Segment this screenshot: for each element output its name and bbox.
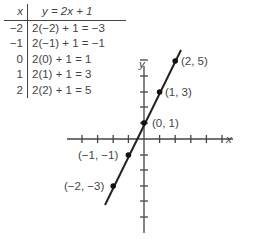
axes bbox=[67, 60, 233, 233]
point bbox=[172, 58, 178, 64]
point-label: (0, 1) bbox=[152, 117, 179, 129]
point-label: (−2, −3) bbox=[64, 180, 104, 192]
point bbox=[157, 89, 163, 95]
point-label: (1, 3) bbox=[165, 86, 192, 98]
point-label: (−1, −1) bbox=[78, 149, 118, 161]
point bbox=[141, 120, 147, 126]
point bbox=[126, 152, 132, 158]
point-label: (2, 5) bbox=[181, 55, 208, 67]
point bbox=[110, 183, 116, 189]
graph: x y (2, 5) (1, 3) (0, 1) (−1, −1) (−2, −… bbox=[0, 0, 259, 248]
